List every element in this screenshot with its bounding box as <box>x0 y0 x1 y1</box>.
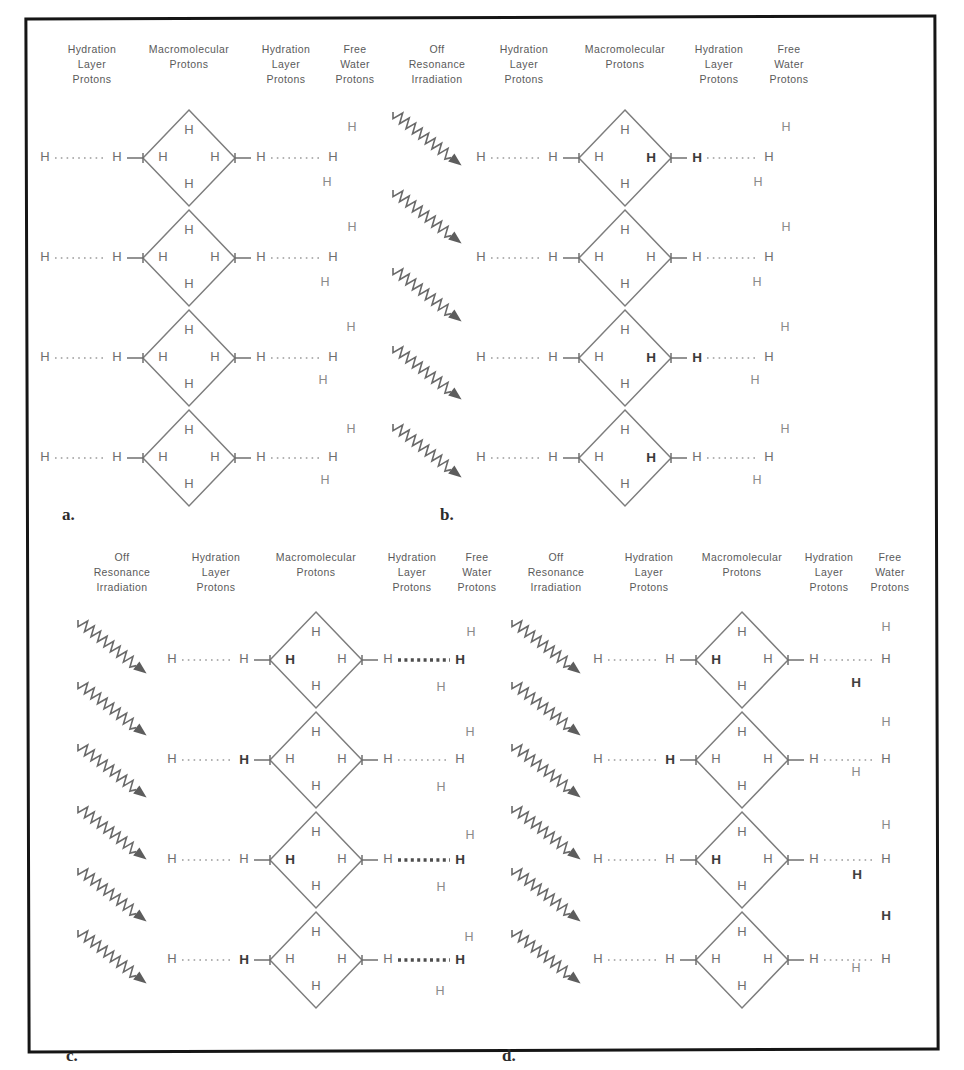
irradiation-arrow-6-arrowhead <box>133 972 146 984</box>
irradiation-arrow-3-arrowhead <box>567 786 580 798</box>
hydration-proton-outer-right: H <box>455 952 465 967</box>
hydration-proton-inner-left: H <box>665 951 674 966</box>
irradiation-arrow-3-wave <box>78 744 136 791</box>
irradiation-arrow-2-arrowhead <box>448 232 461 244</box>
irradiation-arrow-2-arrowhead <box>133 724 146 736</box>
free-water-proton-2: H <box>322 175 331 189</box>
macromolecular-proton-right: H <box>646 450 656 465</box>
irradiation-arrow-4-wave <box>393 346 451 393</box>
macromolecular-proton-left: H <box>594 449 603 464</box>
hydration-proton-outer-right: H <box>881 951 890 966</box>
free-water-proton-3: H <box>781 220 790 234</box>
panel-c: OffResonanceIrradiationHydrationLayerPro… <box>0 530 500 1070</box>
hydration-proton-outer-left: H <box>593 751 602 766</box>
macromolecular-proton-left: H <box>711 852 721 867</box>
hydration-proton-outer-left: H <box>167 851 176 866</box>
macromolecular-proton-bottom: H <box>184 276 193 291</box>
hydration-proton-outer-left: H <box>40 449 49 464</box>
irradiation-arrow-1-arrowhead <box>133 662 146 674</box>
irradiation-arrow-2-wave <box>78 682 136 729</box>
macromolecular-proton-bottom: H <box>311 778 320 793</box>
macromolecular-proton-top: H <box>737 624 746 639</box>
macromolecular-proton-right: H <box>646 150 656 165</box>
macromolecular-proton-right: H <box>763 851 772 866</box>
macromolecular-proton-top: H <box>184 222 193 237</box>
free-water-proton-5: H <box>780 320 789 334</box>
hydration-proton-inner-right: H <box>256 149 265 164</box>
free-water-proton-3: H <box>465 725 474 739</box>
macromolecular-proton-top: H <box>737 824 746 839</box>
irradiation-arrow-5-arrowhead <box>567 910 580 922</box>
irradiation-arrow-6-wave <box>512 930 570 977</box>
macromolecular-proton-right: H <box>337 751 346 766</box>
macromolecular-proton-bottom: H <box>311 978 320 993</box>
free-water-proton-8: H <box>435 984 444 998</box>
free-water-proton-7: H <box>780 422 789 436</box>
free-water-proton-8: H <box>320 473 329 487</box>
free-water-proton-6: H <box>852 867 862 882</box>
panel-a-diagram: HHHHHHHHHHHHHHHHHHHHHHHHHHHHHHHHHHHHHHHH <box>0 0 400 530</box>
panel-d-label: d. <box>502 1046 516 1066</box>
hydration-proton-inner-right: H <box>256 449 265 464</box>
hydration-proton-outer-left: H <box>476 449 485 464</box>
macromolecular-proton-top: H <box>311 724 320 739</box>
free-water-proton-5: H <box>346 320 355 334</box>
hydration-proton-outer-right: H <box>764 449 773 464</box>
hydration-proton-inner-right: H <box>383 951 392 966</box>
hydration-proton-outer-right: H <box>881 651 890 666</box>
free-water-proton-2: H <box>851 675 861 690</box>
macromolecular-proton-bottom: H <box>184 176 193 191</box>
hydration-proton-outer-left: H <box>167 651 176 666</box>
hydration-proton-outer-left: H <box>167 951 176 966</box>
macromolecular-proton-bottom: H <box>620 276 629 291</box>
free-water-proton-1: H <box>466 625 475 639</box>
hydration-proton-inner-right: H <box>809 751 818 766</box>
hydration-proton-inner-right: H <box>692 449 701 464</box>
free-water-proton-2: H <box>753 175 762 189</box>
macromolecular-proton-bottom: H <box>737 778 746 793</box>
hydration-proton-outer-left: H <box>476 249 485 264</box>
hydration-proton-outer-left: H <box>593 851 602 866</box>
irradiation-arrow-5-arrowhead <box>133 910 146 922</box>
macromolecular-proton-bottom: H <box>184 376 193 391</box>
irradiation-arrow-2-arrowhead <box>567 724 580 736</box>
macromolecular-proton-right: H <box>210 249 219 264</box>
macromolecular-proton-top: H <box>184 122 193 137</box>
macromolecular-proton-bottom: H <box>620 176 629 191</box>
macromolecular-proton-right: H <box>763 651 772 666</box>
hydration-proton-inner-right: H <box>256 249 265 264</box>
macromolecular-proton-bottom: H <box>620 376 629 391</box>
irradiation-arrow-4-arrowhead <box>567 848 580 860</box>
hydration-proton-inner-left: H <box>239 752 249 767</box>
free-water-proton-6: H <box>436 880 445 894</box>
irradiation-arrow-3-arrowhead <box>133 786 146 798</box>
figure-panels: HydrationLayerProtonsMacromolecularProto… <box>0 0 964 1070</box>
hydration-proton-outer-left: H <box>40 149 49 164</box>
free-water-proton-2: H <box>436 680 445 694</box>
hydration-proton-inner-right: H <box>692 350 702 365</box>
macromolecular-proton-right: H <box>210 349 219 364</box>
macromolecular-proton-right: H <box>646 350 656 365</box>
hydration-proton-outer-right: H <box>328 149 337 164</box>
irradiation-arrow-1-arrowhead <box>448 154 461 166</box>
macromolecular-proton-top: H <box>311 924 320 939</box>
hydration-proton-inner-left: H <box>239 952 249 967</box>
free-water-proton-7: H <box>346 422 355 436</box>
panel-b: OffResonanceIrradiationHydrationLayerPro… <box>400 0 964 530</box>
free-water-proton-6: H <box>750 373 759 387</box>
irradiation-arrow-4-wave <box>512 806 570 853</box>
macromolecular-proton-bottom: H <box>311 878 320 893</box>
macromolecular-proton-top: H <box>620 122 629 137</box>
panel-a: HydrationLayerProtonsMacromolecularProto… <box>0 0 400 530</box>
hydration-proton-outer-right: H <box>764 249 773 264</box>
macromolecular-proton-right: H <box>763 951 772 966</box>
hydration-proton-inner-right: H <box>383 851 392 866</box>
free-water-proton-7: H <box>464 930 473 944</box>
free-water-proton-4: H <box>436 780 445 794</box>
irradiation-arrow-6-arrowhead <box>567 972 580 984</box>
free-water-proton-1: H <box>347 120 356 134</box>
irradiation-arrow-2-wave <box>512 682 570 729</box>
irradiation-arrow-4-arrowhead <box>448 388 461 400</box>
free-water-proton-5: H <box>881 818 890 832</box>
free-water-proton-8: H <box>752 473 761 487</box>
